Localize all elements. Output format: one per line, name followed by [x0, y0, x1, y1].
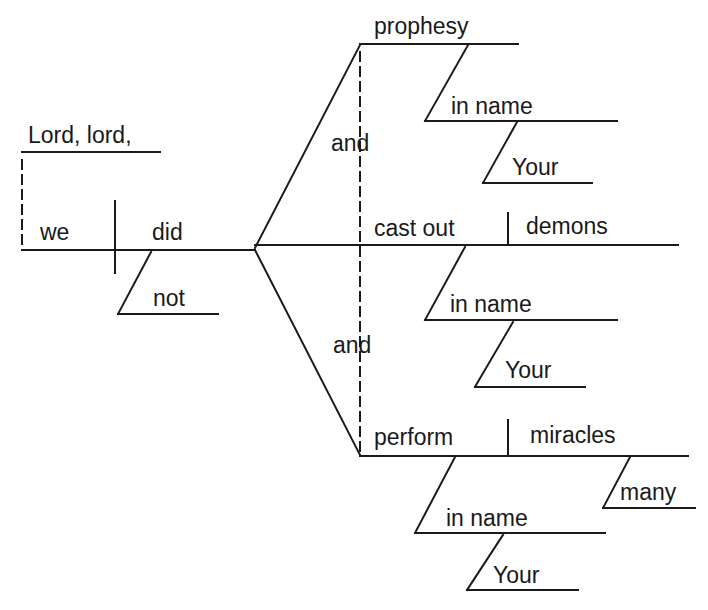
main-clause: we did not	[22, 201, 255, 314]
verb2-prep-word: in name	[450, 291, 532, 317]
verb2-object-word: demons	[526, 213, 608, 239]
verb2-prep-mod-word: Your	[505, 357, 552, 383]
subject-word: we	[39, 219, 69, 245]
negation-slant	[118, 252, 151, 314]
verb3-object-mod-word: many	[620, 479, 677, 505]
verb2-branch: cast out demons in name Your	[255, 213, 678, 387]
verb2-word: cast out	[374, 215, 455, 241]
verb3-branch: perform miracles many in name Your	[360, 420, 695, 590]
verb3-prep-word: in name	[446, 505, 528, 531]
sentence-diagram: Lord, lord, we did not and and prophesy …	[0, 0, 708, 610]
verb1-prep-word: in name	[451, 93, 533, 119]
conjunction-word-1: and	[331, 130, 369, 156]
address-word: Lord, lord,	[28, 122, 132, 148]
verb3-word: perform	[374, 424, 453, 450]
auxiliary-verb-word: did	[152, 219, 183, 245]
negation-word: not	[153, 285, 186, 311]
compound-fork: and and	[255, 45, 371, 455]
conjunction-word-2: and	[333, 332, 371, 358]
verb3-object-word: miracles	[530, 422, 616, 448]
verb3-prep-mod-word: Your	[493, 562, 540, 588]
verb1-prep-mod-word: Your	[512, 154, 559, 180]
verb1-branch: prophesy in name Your	[360, 13, 617, 183]
verb1-word: prophesy	[374, 13, 469, 39]
